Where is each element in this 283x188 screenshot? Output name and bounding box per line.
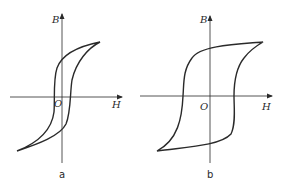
panel-a-y-axis-label: B	[51, 14, 59, 25]
hysteresis-figure: B H O a B H O b	[0, 0, 283, 188]
panel-b-y-axis-label: B	[199, 14, 207, 25]
panel-b-x-axis-label: H	[261, 101, 271, 112]
panel-a-hysteresis-loop	[17, 42, 100, 151]
panel-b-caption: b	[207, 169, 213, 180]
panel-a-origin-label: O	[54, 98, 62, 109]
panel-b-origin-label: O	[200, 101, 208, 112]
panel-b: B H O b	[140, 14, 272, 180]
panel-a-caption: a	[59, 169, 65, 180]
panel-a: B H O a	[10, 14, 122, 180]
panel-a-x-axis-label: H	[111, 99, 121, 110]
